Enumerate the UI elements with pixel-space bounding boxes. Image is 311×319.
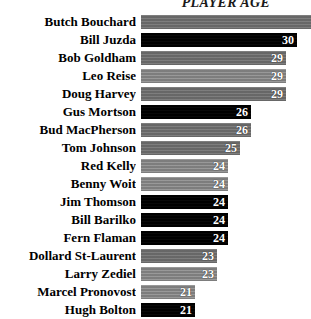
bar-row: Bill Barilko24 <box>0 211 311 229</box>
bar: 24 <box>141 177 228 191</box>
bar-value-label: 21 <box>180 285 192 299</box>
bar-row: Butch Bouchard <box>0 13 311 31</box>
bar-track: 29 <box>141 51 311 65</box>
bar-row: Hugh Bolton21 <box>0 301 311 319</box>
bar-value-label: 29 <box>271 87 283 101</box>
bar: 24 <box>141 195 228 209</box>
bar-track: 24 <box>141 213 311 227</box>
bar-row-label: Leo Reise <box>0 67 136 85</box>
bar-value-label: 24 <box>213 195 225 209</box>
bar-value-label: 23 <box>202 249 214 263</box>
bar-value-label: 29 <box>271 51 283 65</box>
chart-title: PLAYER AGE <box>141 0 311 10</box>
bar: 24 <box>141 213 228 227</box>
bar: 26 <box>141 105 251 119</box>
bar-row-label: Bill Juzda <box>0 31 136 49</box>
bar: 26 <box>141 123 251 137</box>
bar-value-label: 24 <box>213 231 225 245</box>
bar-row-label: Larry Zediel <box>0 265 136 283</box>
bar-row: Bill Juzda30 <box>0 31 311 49</box>
bar-row: Tom Johnson25 <box>0 139 311 157</box>
bar-row: Benny Woit24 <box>0 175 311 193</box>
bar-row: Gus Mortson26 <box>0 103 311 121</box>
bar: 21 <box>141 285 195 299</box>
bar-row: Leo Reise29 <box>0 67 311 85</box>
bar-row: Jim Thomson24 <box>0 193 311 211</box>
bar-row: Fern Flaman24 <box>0 229 311 247</box>
bar-track: 24 <box>141 159 311 173</box>
bar-row-label: Bob Goldham <box>0 49 136 67</box>
bar-track: 29 <box>141 69 311 83</box>
bar-row-label: Tom Johnson <box>0 139 136 157</box>
bar-row-label: Benny Woit <box>0 175 136 193</box>
bar-track <box>141 15 311 29</box>
bar-row-label: Hugh Bolton <box>0 301 136 319</box>
bar-row: Bob Goldham29 <box>0 49 311 67</box>
bar-row-label: Dollard St-Laurent <box>0 247 136 265</box>
bar-row: Dollard St-Laurent23 <box>0 247 311 265</box>
bar-row-label: Bud MacPherson <box>0 121 136 139</box>
bar-row: Red Kelly24 <box>0 157 311 175</box>
bar-value-label: 30 <box>282 33 294 47</box>
bar-track: 23 <box>141 249 311 263</box>
bar-row-label: Jim Thomson <box>0 193 136 211</box>
bar-track: 29 <box>141 87 311 101</box>
bar-row: Doug Harvey29 <box>0 85 311 103</box>
bar-track: 24 <box>141 195 311 209</box>
bar-track: 24 <box>141 177 311 191</box>
bar-row: Larry Zediel23 <box>0 265 311 283</box>
bar-track: 21 <box>141 303 311 317</box>
bar: 29 <box>141 87 286 101</box>
bar-rows-container: Butch BouchardBill Juzda30Bob Goldham29L… <box>0 13 311 319</box>
bar-value-label: 25 <box>225 141 237 155</box>
bar: 29 <box>141 69 286 83</box>
bar-row-label: Marcel Pronovost <box>0 283 136 301</box>
bar-track: 30 <box>141 33 311 47</box>
bar-track: 26 <box>141 105 311 119</box>
bar-row: Marcel Pronovost21 <box>0 283 311 301</box>
bar: 24 <box>141 159 228 173</box>
bar-value-label: 21 <box>180 303 192 317</box>
bar-value-label: 26 <box>236 123 248 137</box>
bar-row-label: Butch Bouchard <box>0 13 136 31</box>
bar-value-label: 24 <box>213 159 225 173</box>
bar: 29 <box>141 51 286 65</box>
bar-track: 23 <box>141 267 311 281</box>
bar-value-label: 24 <box>213 177 225 191</box>
bar-row-label: Red Kelly <box>0 157 136 175</box>
bar: 23 <box>141 267 217 281</box>
bar-track: 24 <box>141 231 311 245</box>
bar-track: 21 <box>141 285 311 299</box>
bar-row-label: Doug Harvey <box>0 85 136 103</box>
bar: 25 <box>141 141 240 155</box>
bar-row: Bud MacPherson26 <box>0 121 311 139</box>
bar: 30 <box>141 33 297 47</box>
bar-row-label: Bill Barilko <box>0 211 136 229</box>
bar-value-label: 26 <box>236 105 248 119</box>
bar: 23 <box>141 249 217 263</box>
bar-track: 26 <box>141 123 311 137</box>
bar-value-label: 29 <box>271 69 283 83</box>
bar-row-label: Fern Flaman <box>0 229 136 247</box>
bar <box>141 15 311 29</box>
bar-row-label: Gus Mortson <box>0 103 136 121</box>
bar: 24 <box>141 231 228 245</box>
bar-track: 25 <box>141 141 311 155</box>
bar-value-label: 24 <box>213 213 225 227</box>
bar: 21 <box>141 303 195 317</box>
bar-value-label: 23 <box>202 267 214 281</box>
